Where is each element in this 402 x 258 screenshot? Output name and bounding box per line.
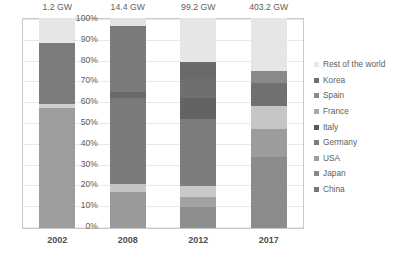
bar-2017[interactable] [251,18,287,228]
bar-segment-usa[interactable] [180,186,216,197]
bar-segment-usa[interactable] [110,184,146,192]
legend-swatch-icon [314,140,319,145]
legend-item-germany[interactable]: Germany [314,135,402,151]
bar-2008[interactable] [110,18,146,228]
bar-total-label: 14.4 GW [88,3,168,12]
legend-swatch-icon [314,156,319,161]
legend-label: China [323,185,345,194]
bar-total-label: 99.2 GW [158,3,238,12]
x-tick-label-2008: 2008 [88,236,168,245]
legend-item-spain[interactable]: Spain [314,88,402,104]
legend-item-korea[interactable]: Korea [314,73,402,89]
bar-segment-italy[interactable] [251,71,287,84]
x-tick-label-2012: 2012 [158,236,238,245]
legend-label: Italy [323,123,338,132]
legend-label: Korea [323,76,345,85]
bars-layer [22,18,304,228]
legend-item-italy[interactable]: Italy [314,119,402,135]
bar-segment-germany[interactable] [110,98,146,184]
bar-segment-italy[interactable] [180,98,216,119]
bar-segment-france[interactable] [39,104,75,108]
bar-segment-spain[interactable] [180,79,216,98]
bar-segment-rest-of-the-world[interactable] [39,18,75,43]
legend-label: France [323,107,349,116]
legend-swatch-icon [314,78,319,83]
bar-segment-japan[interactable] [110,192,146,228]
legend-label: Rest of the world [323,60,385,69]
bar-segment-china[interactable] [251,157,287,228]
bar-segment-korea[interactable] [180,62,216,79]
bar-2002[interactable] [39,18,75,228]
legend-label: Germany [323,138,357,147]
legend: Rest of the worldKoreaSpainFranceItalyGe… [314,57,402,197]
bar-total-label: 403.2 GW [229,3,309,12]
legend-swatch-icon [314,109,319,114]
legend-swatch-icon [314,171,319,176]
legend-item-japan[interactable]: Japan [314,166,402,182]
legend-swatch-icon [314,93,319,98]
bar-segment-rest-of-the-world[interactable] [251,18,287,71]
bar-segment-spain[interactable] [39,43,75,104]
stacked-bar-chart: 100%90%80%70%60%50%40%30%20%10%0% 1.2 GW… [0,0,402,258]
legend-swatch-icon [314,62,319,67]
legend-item-usa[interactable]: USA [314,151,402,167]
legend-item-france[interactable]: France [314,104,402,120]
legend-label: Japan [323,169,346,178]
bar-segment-japan[interactable] [180,197,216,208]
bar-total-label: 1.2 GW [17,3,97,12]
legend-label: Spain [323,91,344,100]
bar-segment-usa[interactable] [251,106,287,129]
bar-segment-germany[interactable] [180,119,216,186]
legend-item-rest-of-the-world[interactable]: Rest of the world [314,57,402,73]
bar-segment-usa[interactable] [39,108,75,228]
bar-segment-spain[interactable] [110,26,146,91]
bar-2012[interactable] [180,18,216,228]
bar-segment-italy[interactable] [110,92,146,98]
x-tick-label-2017: 2017 [229,236,309,245]
bar-segment-rest-of-the-world[interactable] [110,18,146,26]
legend-label: USA [323,154,340,163]
legend-item-china[interactable]: China [314,182,402,198]
bar-segment-rest-of-the-world[interactable] [180,18,216,62]
bar-segment-germany[interactable] [251,83,287,106]
bar-segment-japan[interactable] [251,129,287,156]
bar-segment-china[interactable] [180,207,216,228]
legend-swatch-icon [314,187,319,192]
x-tick-label-2002: 2002 [17,236,97,245]
legend-swatch-icon [314,125,319,130]
